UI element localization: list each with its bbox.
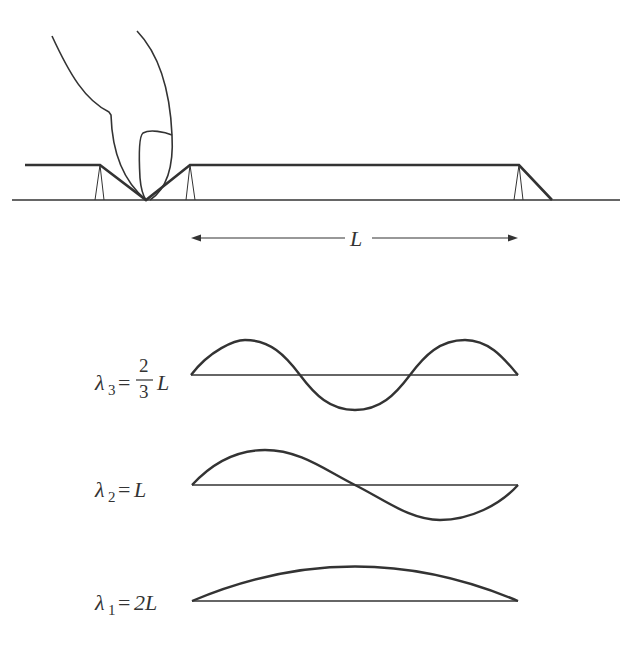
svg-text:3: 3: [108, 382, 116, 398]
left-bridge: [95, 165, 104, 200]
svg-text:λ: λ: [94, 477, 105, 502]
svg-text:λ: λ: [94, 370, 105, 395]
svg-text:=: =: [118, 370, 130, 395]
plucked-string-figure: [12, 31, 620, 200]
string: [25, 165, 552, 200]
label-lambda3: λ 3 = 2 3 L: [94, 355, 169, 402]
svg-text:L: L: [156, 370, 169, 395]
svg-text:=: =: [118, 477, 130, 502]
arrowhead-left: [191, 235, 201, 242]
label-lambda1: λ 1 = 2L: [94, 590, 157, 618]
svg-text:L: L: [133, 477, 146, 502]
arrowhead-right: [508, 235, 518, 242]
standing-wave-diagram: L λ 3 = 2 3 L λ 2 = L λ 1 = 2L: [0, 0, 626, 649]
svg-text:1: 1: [108, 602, 116, 618]
finger-outline-right: [137, 31, 172, 200]
length-label: L: [349, 226, 362, 251]
svg-text:λ: λ: [94, 590, 105, 615]
svg-text:2: 2: [108, 489, 116, 505]
mode-lambda3: [191, 340, 518, 410]
label-lambda2: λ 2 = L: [94, 477, 146, 505]
svg-text:3: 3: [139, 381, 149, 402]
wave-curve: [192, 567, 518, 602]
svg-text:=: =: [118, 590, 130, 615]
svg-text:2L: 2L: [134, 590, 157, 615]
middle-bridge: [186, 165, 195, 200]
mode-lambda1: [192, 567, 518, 602]
svg-text:2: 2: [139, 355, 149, 376]
mode-lambda2: [192, 450, 518, 520]
right-bridge: [514, 165, 523, 200]
fingernail: [139, 131, 172, 200]
